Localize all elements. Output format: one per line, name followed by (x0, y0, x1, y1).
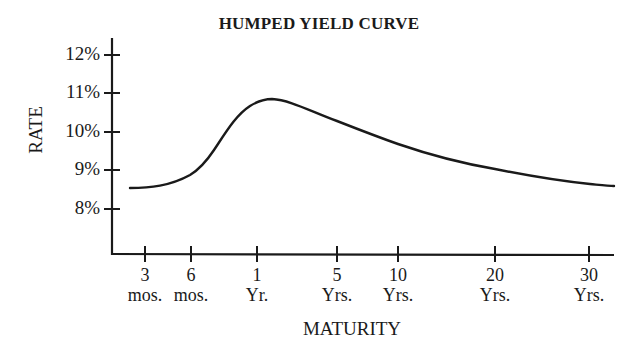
x-tick-unit: Yrs. (460, 285, 530, 305)
x-tick-label: 1 Yr. (222, 265, 292, 305)
y-tick-label: 10% (56, 121, 100, 141)
x-tick-label: 20 Yrs. (460, 265, 530, 305)
x-tick-unit: Yrs. (554, 285, 624, 305)
y-tick-label: 12% (56, 44, 100, 64)
x-tick-number: 6 (156, 265, 226, 285)
x-tick-number: 10 (363, 265, 433, 285)
y-tick-label: 8% (56, 198, 100, 218)
y-tick-label: 11% (56, 82, 100, 102)
x-tick-unit: mos. (156, 285, 226, 305)
x-tick-label: 5 Yrs. (302, 265, 372, 305)
x-tick-unit: Yrs. (363, 285, 433, 305)
x-tick-number: 5 (302, 265, 372, 285)
x-tick-number: 30 (554, 265, 624, 285)
x-tick-unit: Yrs. (302, 285, 372, 305)
y-tick-label: 9% (56, 159, 100, 179)
x-tick-label: 6 mos. (156, 265, 226, 305)
x-axis-line (111, 254, 614, 255)
x-tick-label: 30 Yrs. (554, 265, 624, 305)
x-tick-unit: Yr. (222, 285, 292, 305)
x-tick-label: 10 Yrs. (363, 265, 433, 305)
x-tick-number: 20 (460, 265, 530, 285)
yield-curve-line (130, 99, 614, 188)
x-tick-number: 1 (222, 265, 292, 285)
